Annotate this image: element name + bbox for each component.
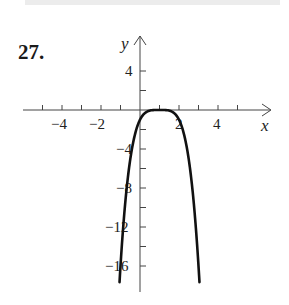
y-ticks: [140, 71, 146, 266]
y-tick-label: −8: [116, 180, 132, 196]
x-tick-label: 4: [213, 116, 221, 132]
x-tick-label: −4: [51, 116, 67, 132]
x-axis-label: x: [260, 116, 269, 135]
y-axis-label: y: [119, 34, 129, 53]
y-tick-label: 4: [125, 63, 133, 79]
y-tick-label: −16: [105, 258, 129, 274]
graph: −4 −2 2 4 4 −4 −8 −12 −16 x y: [0, 0, 289, 305]
x-tick-label: −2: [89, 116, 105, 132]
curve-plot: [120, 110, 200, 282]
